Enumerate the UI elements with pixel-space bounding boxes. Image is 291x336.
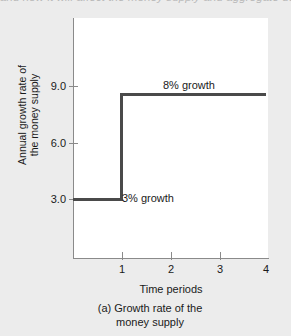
y-axis-title: Annual growth rate of the money supply bbox=[13, 40, 43, 190]
x-tick-label-3: 3 bbox=[208, 263, 232, 275]
x-axis-title: Time periods bbox=[73, 283, 269, 295]
x-tick-label-1: 1 bbox=[110, 263, 134, 275]
figure-caption: (a) Growth rate of the money supply bbox=[40, 302, 260, 329]
data-segment-lower-3pct bbox=[73, 198, 123, 201]
y-axis-title-line-2: the money supply bbox=[28, 74, 41, 156]
x-tick-mark-3 bbox=[220, 252, 221, 260]
x-tick-label-2: 2 bbox=[159, 263, 183, 275]
annotation-8-percent-growth: 8% growth bbox=[163, 79, 215, 91]
y-axis-title-line-1: Annual growth rate of bbox=[16, 65, 29, 165]
y-tick-label-3: 3.0 bbox=[32, 193, 66, 205]
data-segment-upper-8pct bbox=[120, 93, 266, 96]
annotation-3-percent-growth: 3% growth bbox=[122, 192, 174, 204]
y-tick-label-3-wrap: 3.0 bbox=[26, 193, 66, 205]
y-tick-mark-9 bbox=[69, 86, 78, 87]
figure-caption-line-1: (a) Growth rate of the bbox=[40, 302, 260, 316]
x-tick-mark-1 bbox=[122, 252, 123, 260]
x-tick-label-4: 4 bbox=[254, 263, 278, 275]
figure-growth-rate-money-supply: 9.0 6.0 3.0 1 2 3 4 8% growth 3% growth … bbox=[0, 0, 291, 336]
y-tick-mark-6 bbox=[69, 143, 78, 144]
figure-caption-line-2: money supply bbox=[40, 316, 260, 330]
data-segment-vertical-jump bbox=[120, 93, 123, 200]
x-tick-mark-2 bbox=[171, 252, 172, 260]
plot-panel bbox=[73, 18, 268, 258]
